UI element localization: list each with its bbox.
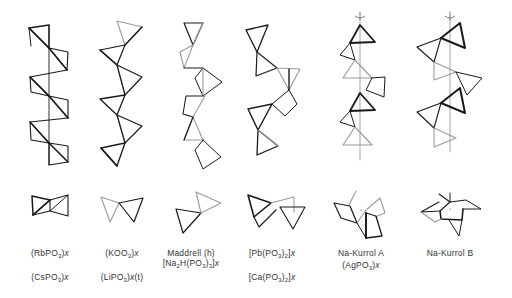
- projection-na-kurrol-a: [334, 191, 385, 238]
- chain-pbpo3: [246, 25, 300, 155]
- label-lipo3: (LiPO3)x(t): [101, 272, 143, 283]
- projection-rbpo3: [32, 195, 68, 216]
- projection-maddrell: [176, 192, 221, 233]
- label-na-kurrol-b: Na-Kurrol B: [427, 248, 474, 258]
- label-agpo3: (AgPO3)x: [342, 260, 380, 271]
- label-maddrell: Maddrell (h): [167, 248, 215, 258]
- label-na-kurrol-a: Na-Kurrol A: [338, 248, 384, 258]
- label-capo3: [Ca(PO3)2]x: [249, 272, 296, 283]
- label-cspo3: (CsPO3)x: [31, 272, 69, 283]
- projection-na-kurrol-b: [421, 193, 481, 236]
- label-pbpo3: [Pb(PO3)2]x: [249, 248, 295, 259]
- label-rbpo3: (RbPO3)x: [31, 248, 69, 259]
- chain-na-kurrol-a: [340, 12, 385, 160]
- projection-koo3: [101, 197, 143, 222]
- chain-maddrell: [180, 23, 222, 169]
- projection-pbpo3: [248, 195, 305, 229]
- chain-na-kurrol-b: [417, 12, 482, 152]
- label-na2hpo3: [Na2H(PO3)3]x: [163, 258, 220, 269]
- chain-koo3: [100, 21, 142, 166]
- label-koo3: (KOO3)x: [105, 248, 139, 259]
- chain-rbpo3: [29, 25, 68, 165]
